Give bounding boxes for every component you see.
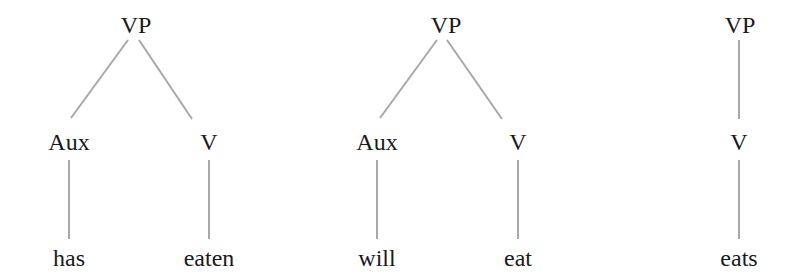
leaf-aux-word: has <box>53 246 85 270</box>
node-v: V <box>200 130 217 154</box>
node-vp: VP <box>121 13 152 37</box>
node-vp: VP <box>431 13 462 37</box>
node-aux: Aux <box>356 130 397 154</box>
leaf-verb-word: eat <box>504 246 532 270</box>
leaf-verb-word: eaten <box>184 246 235 270</box>
node-v: V <box>730 130 747 154</box>
tree-edges <box>0 0 797 279</box>
leaf-verb-word: eats <box>720 246 757 270</box>
syntax-tree-diagram: VP Aux V has eaten VP Aux V will eat VP … <box>0 0 797 279</box>
tree-edge <box>447 40 502 119</box>
tree-edge <box>380 40 437 118</box>
node-v: V <box>509 130 526 154</box>
node-aux: Aux <box>48 130 89 154</box>
tree-edge <box>71 40 128 118</box>
leaf-aux-word: will <box>358 246 395 270</box>
tree-edge <box>139 40 192 119</box>
node-vp: VP <box>725 13 756 37</box>
